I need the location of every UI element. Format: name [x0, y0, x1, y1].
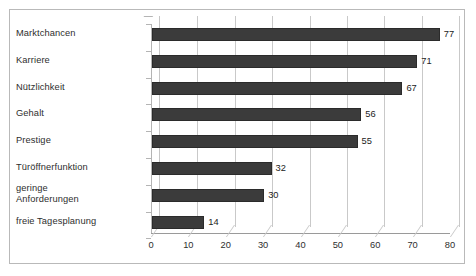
gridline [422, 16, 423, 227]
x-axis-tick-label: 50 [327, 240, 349, 250]
chart-frame: MarktchancenKarriereNützlichkeitGehaltPr… [9, 9, 465, 264]
category-axis-tick [146, 131, 151, 132]
bar [152, 108, 361, 121]
x-axis-tick-label: 0 [140, 240, 162, 250]
plot-area: 777167565532301401020304050607080 [142, 10, 464, 263]
category-label: geringeAnforderungen [16, 183, 134, 205]
category-axis-tick [146, 185, 151, 186]
category-axis-tick [146, 24, 151, 25]
gridline [347, 16, 348, 227]
category-label-line: Anforderungen [16, 194, 134, 205]
category-label-line: Karriere [16, 55, 134, 66]
category-label-line: Marktchancen [16, 28, 134, 39]
bar [152, 135, 358, 148]
category-label-line: freie Tagesplanung [16, 216, 134, 227]
category-label-line: Gehalt [16, 108, 134, 119]
category-label-line: Nützlichkeit [16, 82, 134, 93]
category-label-line: geringe [16, 183, 134, 194]
category-label: Gehalt [16, 108, 134, 119]
category-axis-tick [146, 104, 151, 105]
category-label: Nützlichkeit [16, 82, 134, 93]
gridline [459, 16, 460, 227]
gridline [310, 16, 311, 227]
category-label: freie Tagesplanung [16, 216, 134, 227]
category-axis-tick [146, 158, 151, 159]
bar [152, 216, 204, 229]
bar-value-label: 77 [444, 28, 454, 41]
x-axis-tick-label: 60 [364, 240, 386, 250]
category-axis-labels: MarktchancenKarriereNützlichkeitGehaltPr… [10, 10, 142, 263]
category-axis-tick [146, 78, 151, 79]
bar-value-label: 30 [268, 189, 278, 202]
category-label-line: Prestige [16, 135, 134, 146]
bar-value-label: 14 [208, 216, 218, 229]
category-axis-tick [146, 212, 151, 213]
category-label-line: Türöffnerfunktion [16, 162, 134, 173]
bar-value-label: 55 [362, 135, 372, 148]
x-axis-tick-label: 30 [252, 240, 274, 250]
category-axis-tick [146, 51, 151, 52]
category-label: Prestige [16, 135, 134, 146]
bar [152, 28, 440, 41]
bar-value-label: 32 [276, 162, 286, 175]
category-label: Karriere [16, 55, 134, 66]
x-axis-tick-label: 20 [215, 240, 237, 250]
x-axis-tick-label: 10 [177, 240, 199, 250]
category-label: Türöffnerfunktion [16, 162, 134, 173]
gridline [384, 16, 385, 227]
bar-value-label: 67 [406, 82, 416, 95]
bar [152, 82, 402, 95]
x-axis-tick-label: 80 [439, 240, 461, 250]
bar-value-label: 71 [421, 55, 431, 68]
bar [152, 189, 264, 202]
category-label: Marktchancen [16, 28, 134, 39]
bar-value-label: 56 [365, 108, 375, 121]
value-axis-line [151, 233, 450, 234]
bar [152, 55, 417, 68]
x-axis-tick-label: 70 [402, 240, 424, 250]
x-axis-tick-label: 40 [290, 240, 312, 250]
bar [152, 162, 272, 175]
